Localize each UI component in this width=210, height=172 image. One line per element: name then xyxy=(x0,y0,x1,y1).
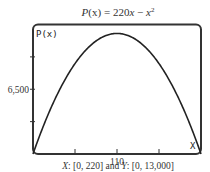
axis-ticks xyxy=(30,57,159,154)
window-caption: X: [0, 220] and Y: [0, 13,000] xyxy=(61,161,174,171)
calculator-screen-frame xyxy=(33,25,201,155)
y-tick-label: 6,500 xyxy=(8,85,30,95)
parabola-chart: P(x) = 220x − x2 P(x) X 1106,500 X: [0, … xyxy=(0,0,210,172)
screen-x-label: X xyxy=(190,141,196,151)
chart-title: P(x) = 220x − x2 xyxy=(81,6,155,19)
profit-curve xyxy=(33,33,201,154)
screen-y-label: P(x) xyxy=(36,29,58,39)
